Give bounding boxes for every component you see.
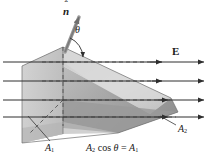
area-a2-subscript: 2 xyxy=(184,127,187,134)
area-a2-label: A2 xyxy=(178,124,187,134)
caption-cos: cos xyxy=(98,142,111,153)
caption-a1-subscript: 1 xyxy=(135,146,138,153)
electric-field-label: E xyxy=(172,46,179,57)
caption-equation: A2 cos θ = A1 xyxy=(86,143,138,153)
hat-accent-icon: ˆ xyxy=(63,0,69,10)
normal-vector-label: ˆ n xyxy=(63,6,69,17)
flux-diagram-figure: ˆ n θ E A1 A2 A2 cos θ = A1 xyxy=(0,0,210,166)
theta-angle-label: θ xyxy=(75,25,80,35)
area-a1-label: A1 xyxy=(45,143,54,153)
area-a1-subscript: 1 xyxy=(51,146,54,153)
